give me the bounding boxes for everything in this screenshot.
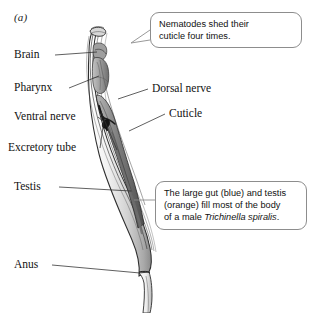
callout-cuticle-line-2: cuticle four times. xyxy=(159,30,294,42)
nematode-anatomy-figure: (a) Brain Pharynx Ventral nerve Excretor… xyxy=(0,0,314,313)
tail-tube xyxy=(139,272,152,313)
label-testis: Testis xyxy=(14,181,41,193)
callout-pointer-cuticle xyxy=(131,30,150,43)
label-cuticle: Cuticle xyxy=(169,108,202,120)
excretory-pore xyxy=(101,116,104,119)
callout-cuticle-line-1: Nematodes shed their xyxy=(159,18,294,30)
species-name-trichinella-spiralis: Trichinella spiralis xyxy=(204,212,276,222)
label-anus: Anus xyxy=(14,259,38,271)
label-pharynx: Pharynx xyxy=(14,82,52,94)
callout-gut-line-3-suffix: . xyxy=(277,212,280,222)
callout-gut-testis: The large gut (blue) and testis (orange)… xyxy=(155,181,307,230)
label-excretory-tube: Excretory tube xyxy=(8,142,76,154)
callout-cuticle-shedding: Nematodes shed their cuticle four times. xyxy=(150,12,302,48)
panel-letter: (a) xyxy=(14,11,27,23)
leader-lines-right xyxy=(118,89,165,131)
leader-dorsal-nerve xyxy=(118,89,148,99)
label-ventral-nerve: Ventral nerve xyxy=(14,111,76,123)
callout-gut-line-3: of a male Trichinella spiralis. xyxy=(164,211,299,223)
posterior-tail-region xyxy=(139,271,152,313)
callout-gut-line-3-prefix: of a male xyxy=(164,212,204,222)
callout-gut-line-2: (orange) fill most of the body xyxy=(164,199,299,211)
leader-anus xyxy=(52,265,140,273)
label-dorsal-nerve: Dorsal nerve xyxy=(152,83,211,95)
label-brain: Brain xyxy=(14,49,40,61)
leader-cuticle xyxy=(129,114,165,131)
callout-gut-line-1: The large gut (blue) and testis xyxy=(164,187,299,199)
